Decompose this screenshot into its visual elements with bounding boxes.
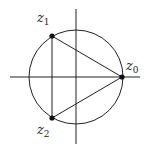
label-z0: z0 [125,58,139,75]
point-z0 [119,74,124,79]
roots-of-unity-diagram: z0 z1 z2 [0,0,152,145]
label-z2: z2 [36,122,50,139]
point-z1 [49,33,54,38]
label-z1: z1 [36,10,50,27]
point-z2 [49,115,54,120]
